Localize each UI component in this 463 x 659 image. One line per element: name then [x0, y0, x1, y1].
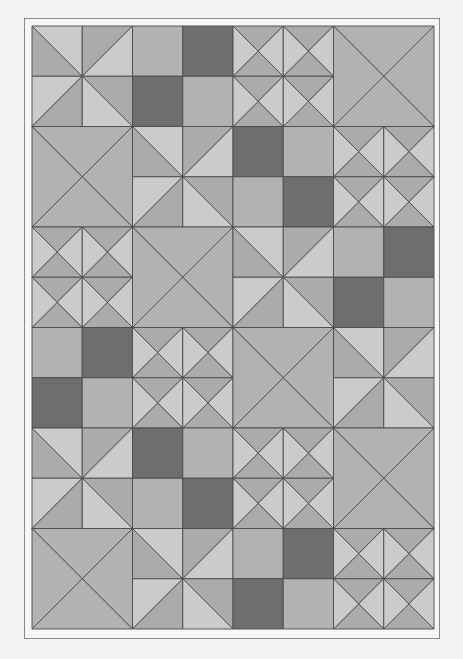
four-patch-square — [233, 579, 283, 629]
four-patch-square — [384, 277, 434, 327]
four-patch-square — [32, 378, 82, 428]
four-patch-square — [183, 76, 233, 126]
four-patch-square — [183, 26, 233, 76]
four-patch-square — [82, 378, 132, 428]
four-patch-square — [183, 428, 233, 478]
four-patch-square — [133, 26, 183, 76]
four-patch-square — [283, 127, 333, 177]
four-patch-square — [183, 478, 233, 528]
four-patch-square — [133, 76, 183, 126]
four-patch-square — [133, 478, 183, 528]
four-patch-square — [334, 277, 384, 327]
four-patch-square — [32, 328, 82, 378]
quilt-pattern — [31, 25, 435, 633]
four-patch-square — [82, 328, 132, 378]
four-patch-square — [283, 529, 333, 579]
four-patch-square — [334, 227, 384, 277]
four-patch-square — [233, 127, 283, 177]
four-patch-square — [283, 579, 333, 629]
four-patch-square — [133, 428, 183, 478]
four-patch-square — [283, 177, 333, 227]
four-patch-square — [384, 227, 434, 277]
four-patch-square — [233, 177, 283, 227]
four-patch-square — [233, 529, 283, 579]
quilt-blocks — [32, 26, 434, 629]
